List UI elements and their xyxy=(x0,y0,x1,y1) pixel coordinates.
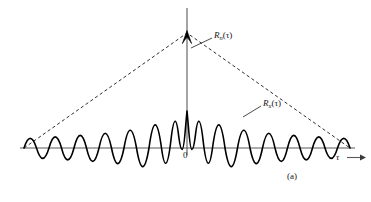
label-rx-argument: (τ) xyxy=(271,98,281,108)
leader-line-rx xyxy=(243,106,261,117)
figure-caption: (a) xyxy=(287,172,297,181)
label-rn-subscript: n xyxy=(220,34,223,41)
label-rn-argument: (τ) xyxy=(223,30,233,40)
x-axis-label: τ xyxy=(336,153,339,162)
label-rx-base: R xyxy=(263,98,269,108)
curve-label-rn: Rn(τ) xyxy=(214,31,232,40)
figure-container: Rn(τ) Rx(τ) 0 τ (a) xyxy=(0,0,371,202)
origin-label: 0 xyxy=(183,151,188,160)
label-rn-base: R xyxy=(214,30,220,40)
arrow-right-icon xyxy=(360,154,366,160)
leader-line-rn xyxy=(191,38,212,48)
figure-canvas xyxy=(0,0,371,202)
label-rx-subscript: x xyxy=(269,102,272,109)
curve-label-rx: Rx(τ) xyxy=(263,99,281,108)
